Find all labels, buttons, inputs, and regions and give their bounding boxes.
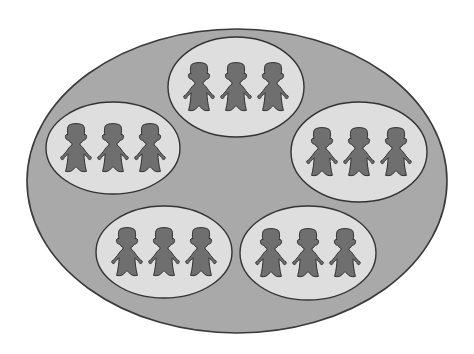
group-bottom-left [96,206,232,298]
group-left [46,102,180,194]
group-top [168,37,304,137]
group-right [291,102,427,202]
group-bottom-right [240,206,376,300]
population-diagram [0,0,474,354]
